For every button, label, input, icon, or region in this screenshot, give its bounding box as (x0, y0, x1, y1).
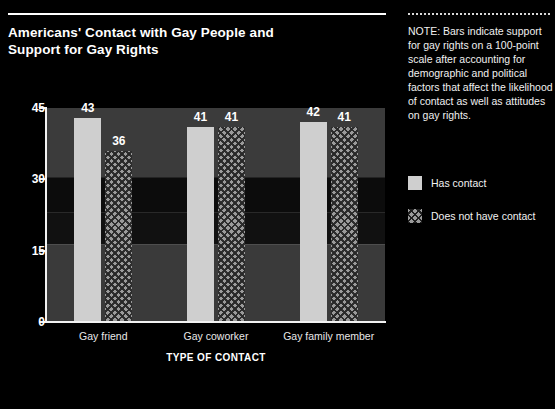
bar-value-label: 41 (187, 111, 214, 123)
plot-area: 433641414241 (47, 108, 385, 322)
y-tick-label: 15 (11, 245, 45, 257)
bar-value-label: 36 (105, 135, 132, 147)
legend-item[interactable]: Does not have contact (408, 209, 555, 223)
note-rule (408, 13, 550, 15)
legend-label: Does not have contact (431, 210, 535, 222)
x-category-label: Gay friend (38, 330, 168, 342)
x-axis-title: TYPE OF CONTACT (47, 352, 385, 363)
legend-swatch-icon (408, 176, 422, 190)
chart-legend: Has contactDoes not have contact (408, 176, 555, 242)
title-rule (8, 13, 386, 15)
y-tick-label: 0 (11, 316, 45, 328)
bar-value-label: 41 (218, 111, 245, 123)
legend-label: Has contact (431, 177, 486, 189)
y-axis-ticks: 0153045 (0, 0, 45, 409)
chart-page: Americans' Contact with Gay People and S… (0, 0, 555, 409)
x-category-label: Gay family member (264, 330, 394, 342)
page-title: Americans' Contact with Gay People and S… (8, 24, 308, 58)
x-category-label: Gay coworker (151, 330, 281, 342)
side-panel: NOTE: Bars indicate support for gay righ… (400, 0, 555, 409)
y-tick-label: 45 (11, 102, 45, 114)
bar[interactable] (74, 118, 101, 322)
chart-panel: Americans' Contact with Gay People and S… (0, 0, 400, 409)
legend-item[interactable]: Has contact (408, 176, 555, 190)
legend-swatch-icon (408, 209, 422, 223)
bar-group: 4141 (187, 108, 245, 322)
y-axis-line (45, 107, 47, 323)
chart-note: NOTE: Bars indicate support for gay righ… (408, 24, 553, 122)
bar[interactable] (300, 122, 327, 322)
bar-value-label: 42 (300, 106, 327, 118)
x-axis-line (45, 321, 386, 323)
bar[interactable] (187, 127, 214, 322)
bar[interactable] (218, 127, 245, 322)
bar[interactable] (331, 127, 358, 322)
y-tick-label: 30 (11, 173, 45, 185)
bar-value-label: 41 (331, 111, 358, 123)
bar[interactable] (105, 151, 132, 322)
bar-group: 4241 (300, 108, 358, 322)
bar-group: 4336 (74, 108, 132, 322)
bar-value-label: 43 (74, 102, 101, 114)
